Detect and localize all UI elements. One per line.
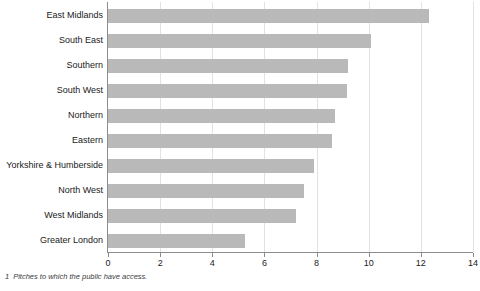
category-label: Eastern <box>0 135 103 146</box>
bar <box>108 209 296 223</box>
y-axis-line <box>107 2 108 253</box>
bar <box>108 84 347 98</box>
x-axis-line <box>108 252 473 253</box>
bar-chart: East MidlandsSouth EastSouthernSouth Wes… <box>0 0 480 291</box>
footnote-marker: 1 <box>5 272 9 281</box>
x-axis-tick-label: 10 <box>364 258 374 269</box>
plot-area <box>108 2 473 252</box>
x-axis-tick-label: 0 <box>105 258 110 269</box>
bar <box>108 59 348 73</box>
bar <box>108 109 335 123</box>
category-label: Greater London <box>0 235 103 246</box>
x-axis-tick-label: 12 <box>416 258 426 269</box>
category-label: Northern <box>0 110 103 121</box>
x-axis-tick-label: 14 <box>468 258 478 269</box>
x-axis-tick <box>160 253 161 257</box>
footnote: 1Pitches to which the public have access… <box>5 272 147 282</box>
category-label: South East <box>0 35 103 46</box>
bar <box>108 34 371 48</box>
x-axis-tick-label: 6 <box>262 258 267 269</box>
bar <box>108 134 332 148</box>
bar <box>108 159 314 173</box>
category-label: West Midlands <box>0 210 103 221</box>
gridline-12 <box>421 2 422 252</box>
bar <box>108 9 429 23</box>
category-label: North West <box>0 185 103 196</box>
bar <box>108 234 245 248</box>
x-axis-tick <box>317 253 318 257</box>
footnote-text: Pitches to which the public have access. <box>13 272 147 281</box>
category-label: Southern <box>0 60 103 71</box>
x-axis-tick <box>212 253 213 257</box>
category-label: Yorkshire & Humberside <box>0 160 103 171</box>
category-label: East Midlands <box>0 10 103 21</box>
x-axis-tick <box>421 253 422 257</box>
bar <box>108 184 304 198</box>
x-axis-tick <box>108 253 109 257</box>
x-axis-tick-label: 4 <box>210 258 215 269</box>
x-axis-tick-label: 8 <box>314 258 319 269</box>
x-axis-tick <box>369 253 370 257</box>
gridline-14 <box>473 2 474 252</box>
x-axis-tick <box>264 253 265 257</box>
x-axis-tick-label: 2 <box>158 258 163 269</box>
category-label: South West <box>0 85 103 96</box>
x-axis-tick <box>473 253 474 257</box>
